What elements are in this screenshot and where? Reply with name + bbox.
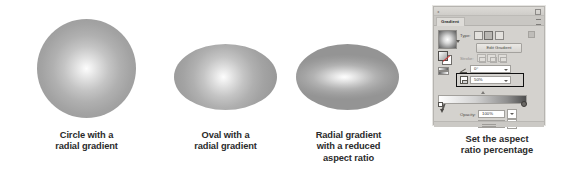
- stroke-button-group: [477, 54, 507, 62]
- opacity-dropdown-button[interactable]: [507, 109, 517, 119]
- figure-oval-radial: Oval with a radial gradient: [160, 0, 291, 177]
- chevron-down-icon[interactable]: [504, 69, 508, 71]
- stroke-across-button[interactable]: [498, 54, 507, 62]
- panel-tab-strip: Gradient: [434, 16, 544, 26]
- gradient-angle-row: 0°: [460, 65, 511, 73]
- type-freeform-button[interactable]: [495, 31, 504, 40]
- gradient-type-row: Type:: [460, 31, 504, 40]
- opacity-value: 100%: [479, 110, 493, 118]
- angle-value: 0°: [471, 65, 478, 73]
- caption-line: ratio percentage: [425, 145, 569, 156]
- panel-footer: [434, 121, 544, 127]
- stroke-type-row: Stroke:: [460, 54, 507, 62]
- angle-field[interactable]: 0°: [470, 65, 511, 73]
- edit-gradient-button[interactable]: Edit Gradient: [476, 43, 522, 53]
- gradient-stop-end[interactable]: [521, 101, 527, 107]
- caption-line: Radial gradient: [283, 130, 414, 141]
- shape-area: [0, 0, 173, 128]
- gradient-panel: ◂ Gradient: [433, 6, 545, 125]
- stroke-label: Stroke:: [460, 56, 474, 61]
- figure-oval-reduced-aspect: Radial gradient with a reduced aspect ra…: [283, 0, 414, 177]
- aspect-ratio-row: 50%: [460, 76, 511, 84]
- shape-area: [283, 0, 414, 128]
- caption-line: Oval with a: [160, 130, 291, 141]
- caption-line: radial gradient: [0, 141, 173, 152]
- type-linear-button[interactable]: [474, 31, 483, 40]
- fill-stroke-icon[interactable]: [438, 51, 451, 64]
- figure-circle-radial: Circle with a radial gradient: [0, 0, 173, 177]
- caption-line: radial gradient: [160, 141, 291, 152]
- tab-gradient[interactable]: Gradient: [436, 17, 465, 26]
- figure-caption: Oval with a radial gradient: [160, 130, 291, 153]
- oval-radial-gradient-shape: [174, 44, 277, 110]
- oval-reduced-aspect-gradient-shape: [296, 44, 399, 110]
- panel-resize-grip[interactable]: [482, 124, 496, 125]
- figure-sheet: Circle with a radial gradient Oval with …: [0, 0, 569, 177]
- panel-collapse-icon[interactable]: ◂: [437, 10, 440, 13]
- figure-gradient-panel: ◂ Gradient: [425, 0, 569, 177]
- reverse-bar: [438, 71, 449, 75]
- stroke-along-button[interactable]: [487, 54, 496, 62]
- gradient-ramp-bar[interactable]: [438, 95, 527, 104]
- aspect-ratio-field[interactable]: 50%: [470, 76, 511, 84]
- reverse-gradient-icon[interactable]: [438, 67, 447, 75]
- eyedropper-tip: [440, 109, 444, 113]
- stroke-within-button[interactable]: [477, 54, 486, 62]
- figure-caption: Set the aspect ratio percentage: [425, 134, 569, 157]
- caption-line: aspect ratio: [283, 153, 414, 164]
- gradient-stop-start[interactable]: [438, 102, 443, 107]
- caption-line: with a reduced: [283, 141, 414, 152]
- panel-body: Type: Edit Gradient Stroke:: [434, 26, 544, 127]
- angle-icon: [460, 66, 468, 73]
- aspect-ratio-icon: [460, 76, 468, 84]
- opacity-label: Opacity:: [460, 112, 476, 117]
- panel-titlebar[interactable]: ◂: [434, 7, 544, 16]
- circle-radial-gradient-shape: [37, 19, 136, 118]
- aspect-ratio-value: 50%: [471, 76, 483, 84]
- opacity-row: Opacity: 100%: [460, 109, 517, 119]
- type-button-group: [474, 31, 504, 40]
- panel-menu-icon[interactable]: [536, 19, 541, 25]
- type-radial-button[interactable]: [484, 31, 493, 40]
- figure-caption: Circle with a radial gradient: [0, 130, 173, 153]
- gradient-swatch-preview[interactable]: [438, 30, 457, 49]
- gradient-ramp-slider[interactable]: [438, 91, 527, 107]
- figure-caption: Radial gradient with a reduced aspect ra…: [283, 130, 414, 164]
- opacity-field[interactable]: 100%: [478, 110, 505, 118]
- chevron-down-icon[interactable]: [504, 80, 508, 82]
- chevron-down-icon[interactable]: [456, 40, 460, 43]
- shape-area: [160, 0, 291, 128]
- type-label: Type:: [460, 33, 471, 38]
- caption-line: Set the aspect: [425, 134, 569, 145]
- delete-stop-button[interactable]: [528, 31, 535, 38]
- panel-close-icon[interactable]: [535, 9, 541, 15]
- caption-line: Circle with a: [0, 130, 173, 141]
